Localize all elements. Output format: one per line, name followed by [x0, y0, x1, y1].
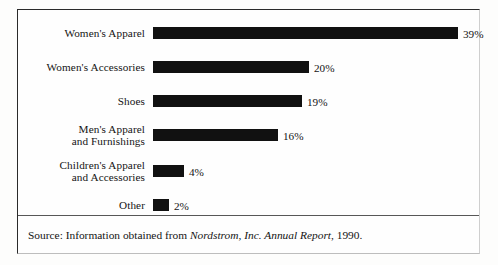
- category-label-line1: Other: [119, 199, 145, 211]
- category-label: Shoes: [18, 95, 145, 107]
- bar-track: 16%: [153, 125, 479, 159]
- bar: [153, 61, 309, 73]
- bar-track: 2%: [153, 195, 479, 229]
- category-label-line1: Shoes: [118, 95, 145, 107]
- bar-track: 39%: [153, 23, 479, 57]
- category-label-line1: Children's Apparel: [59, 159, 145, 171]
- bar: [153, 199, 169, 211]
- bar: [153, 165, 184, 177]
- category-label: Other: [18, 199, 145, 211]
- bar-value-label: 20%: [314, 62, 335, 74]
- category-label-line2: and Furnishings: [18, 135, 145, 147]
- chart-row: Children's Apparel and Accessories 4%: [18, 161, 479, 195]
- source-note: Source: Information obtained from Nordst…: [28, 228, 473, 242]
- category-label-line1: Women's Accessories: [47, 61, 145, 73]
- bar-value-label: 19%: [307, 96, 328, 108]
- chart-row: Men's Apparel and Furnishings 16%: [18, 125, 479, 159]
- bar-value-label: 2%: [174, 200, 189, 212]
- chart-row: Women's Accessories 20%: [18, 57, 479, 91]
- category-label: Children's Apparel and Accessories: [18, 159, 145, 184]
- category-label: Women's Accessories: [18, 61, 145, 73]
- bar: [153, 129, 278, 141]
- category-label-line2: and Accessories: [18, 171, 145, 183]
- source-prefix: Source: Information obtained from: [28, 229, 190, 241]
- category-label-line1: Women's Apparel: [64, 27, 145, 39]
- chart-frame: Women's Apparel 39% Women's Accessories …: [17, 9, 480, 254]
- bar-value-label: 16%: [283, 130, 304, 142]
- source-suffix: , 1990.: [331, 229, 362, 241]
- bar: [153, 95, 302, 107]
- source-divider: [18, 215, 479, 216]
- chart-row: Women's Apparel 39%: [18, 23, 479, 57]
- bar-chart-plot-area: Women's Apparel 39% Women's Accessories …: [18, 10, 479, 253]
- bar-value-label: 4%: [189, 166, 204, 178]
- bar-track: 19%: [153, 91, 479, 125]
- bar: [153, 27, 458, 39]
- chart-row: Other 2%: [18, 195, 479, 229]
- bar-track: 20%: [153, 57, 479, 91]
- category-label: Men's Apparel and Furnishings: [18, 123, 145, 148]
- bar-value-label: 39%: [463, 28, 484, 40]
- source-publication: Nordstrom, Inc. Annual Report: [190, 229, 331, 241]
- bar-track: 4%: [153, 161, 479, 195]
- category-label-line1: Men's Apparel: [79, 123, 145, 135]
- category-label: Women's Apparel: [18, 27, 145, 39]
- chart-row: Shoes 19%: [18, 91, 479, 125]
